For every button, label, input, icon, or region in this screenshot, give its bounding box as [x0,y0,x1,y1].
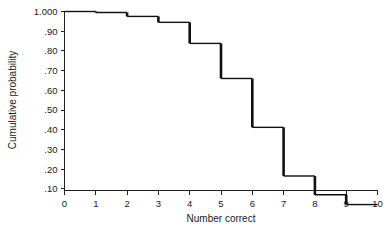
y-tick-label: .50 [44,104,57,115]
chart-figure: 1.000.90.80.70.60.50.40.30.20.10 0123456… [0,0,386,236]
x-axis-title: Number correct [187,213,256,224]
axis-lines [65,11,378,191]
x-axis-ticks: 012345678910 [62,191,383,210]
x-tick-label: 5 [218,198,223,209]
y-tick-label: 1.000 [34,6,58,17]
y-tick-label: .60 [44,85,57,96]
y-tick-label: .20 [44,164,57,175]
x-tick-label: 7 [281,198,286,209]
y-tick-label: .10 [44,183,57,194]
y-tick-label: .30 [44,144,57,155]
x-tick-label: 2 [124,198,129,209]
y-axis-title: Cumulative probability [7,51,18,149]
y-tick-label: .80 [44,45,57,56]
y-axis-ticks: 1.000.90.80.70.60.50.40.30.20.10 [34,6,65,194]
x-tick-label: 3 [156,198,161,209]
x-tick-label: 4 [187,198,192,209]
y-tick-label: .70 [44,65,57,76]
x-tick-label: 10 [372,198,383,209]
step-curve [65,12,378,205]
y-tick-label: .90 [44,26,57,37]
x-tick-label: 6 [250,198,255,209]
x-tick-label: 8 [312,198,317,209]
cumulative-probability-step-chart: 1.000.90.80.70.60.50.40.30.20.10 0123456… [0,0,386,236]
x-tick-label: 1 [93,198,98,209]
y-tick-label: .40 [44,124,57,135]
x-tick-label: 0 [62,198,67,209]
